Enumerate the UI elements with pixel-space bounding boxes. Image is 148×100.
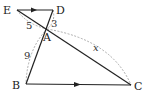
- point-label-E: E: [3, 4, 11, 17]
- measure-AC: x: [93, 42, 99, 53]
- measure-DA: 3: [51, 18, 57, 29]
- point-label-A: A: [42, 31, 52, 44]
- measure-EA: 5: [26, 20, 32, 31]
- point-label-B: B: [12, 79, 20, 92]
- parallel-arrow-icon: [31, 8, 37, 13]
- point-label-D: D: [56, 4, 65, 17]
- parallel-arrow-icon: [74, 82, 81, 87]
- measure-AB: 9: [24, 50, 30, 61]
- geometry-diagram: E D A B C 5 3 9 x: [0, 0, 148, 100]
- point-label-C: C: [134, 80, 142, 93]
